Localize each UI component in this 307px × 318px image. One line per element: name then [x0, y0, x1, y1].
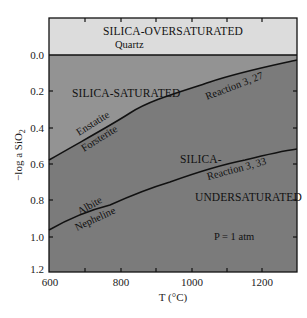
y-axis-title: −log a SiO2	[12, 129, 27, 181]
x-tick-label: 600	[42, 276, 59, 288]
phase-diagram: 0.0 0.2 0.4 0.6 0.8 1.0 1.2 600 800 1000…	[0, 0, 307, 318]
y-tick-label: 0.2	[30, 85, 44, 97]
y-tick-label: 1.0	[30, 231, 44, 243]
y-tick-label: 0.0	[30, 49, 44, 61]
label-silica-saturated: SILICA-SATURATED	[72, 87, 180, 99]
label-silica-dash: SILICA-	[180, 153, 222, 165]
label-quartz: Quartz	[115, 39, 144, 50]
x-tick-label: 1200	[251, 276, 274, 288]
y-tick-label: 0.4	[30, 122, 44, 134]
x-tick-label: 1000	[181, 276, 204, 288]
x-tick-label: 800	[113, 276, 130, 288]
y-tick-label: 0.8	[30, 194, 44, 206]
x-axis-title: T (°C)	[159, 291, 188, 304]
label-silica-oversaturated: SILICA-OVERSATURATED	[103, 25, 243, 37]
y-tick-label: 0.6	[30, 158, 44, 170]
label-undersaturated: UNDERSATURATED	[195, 191, 302, 203]
label-pressure: P = 1 atm	[214, 231, 254, 242]
y-tick-label: 1.2	[30, 263, 44, 275]
svg-text:−log a SiO2: −log a SiO2	[12, 129, 27, 181]
